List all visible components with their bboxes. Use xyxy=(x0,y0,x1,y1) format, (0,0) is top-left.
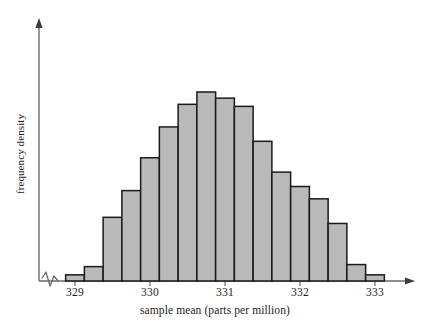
histogram-bar xyxy=(178,104,197,281)
histogram-bar xyxy=(234,106,253,281)
histogram-bar xyxy=(141,158,160,281)
x-axis-tick-label: 330 xyxy=(141,286,159,298)
histogram-bar xyxy=(291,187,310,282)
y-axis-label: frequency density xyxy=(14,104,26,204)
histogram-bar xyxy=(122,191,141,281)
histogram-bar xyxy=(272,172,291,281)
x-axis-tick-label: 329 xyxy=(66,286,84,298)
axis-break-icon xyxy=(42,272,58,286)
histogram-figure: 329330331332333 sample mean (parts per m… xyxy=(0,0,430,327)
histogram-bar xyxy=(366,275,385,281)
x-axis-label: sample mean (parts per million) xyxy=(0,304,430,316)
histogram-plot xyxy=(0,0,430,327)
histogram-bar xyxy=(103,217,122,281)
histogram-bar xyxy=(216,98,235,281)
histogram-bar xyxy=(197,92,216,281)
histogram-bar xyxy=(66,275,85,281)
histogram-bar xyxy=(309,199,328,281)
x-axis-tick-label: 331 xyxy=(216,286,234,298)
histogram-bar xyxy=(159,127,178,281)
histogram-bar xyxy=(84,267,103,281)
y-axis xyxy=(35,18,42,281)
histogram-bar xyxy=(253,141,272,281)
histogram-bars xyxy=(66,92,385,281)
histogram-bar xyxy=(347,265,366,281)
histogram-bar xyxy=(328,223,347,281)
x-axis-tick-label: 332 xyxy=(291,286,309,298)
x-axis-tick-label: 333 xyxy=(366,286,384,298)
